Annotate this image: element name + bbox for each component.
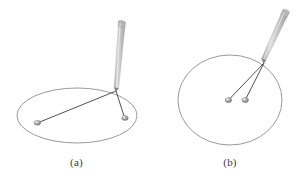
pin-a-right (122, 116, 129, 121)
pin-a-left (34, 120, 41, 125)
pin-b-right (242, 98, 249, 103)
string-a-right (116, 91, 125, 118)
string-a-left (39, 91, 117, 123)
panel-b-group (178, 9, 289, 145)
panel-a-caption: (a) (0, 156, 153, 168)
pin-b-left (225, 98, 232, 103)
figure-canvas: (a) (b) (0, 0, 307, 178)
pencil-a-tip (114, 88, 118, 92)
pencil-b-body (262, 10, 290, 61)
ellipse-curve-a (17, 88, 137, 143)
panel-b-caption: (b) (153, 156, 307, 168)
pencil-a (114, 20, 125, 91)
pencil-b-highlight (264, 13, 284, 59)
string-b-left (229, 63, 264, 100)
pencil-b (262, 9, 290, 63)
figure-illustration (0, 0, 307, 178)
string-b-right (246, 63, 265, 100)
panel-a-group (17, 20, 137, 143)
